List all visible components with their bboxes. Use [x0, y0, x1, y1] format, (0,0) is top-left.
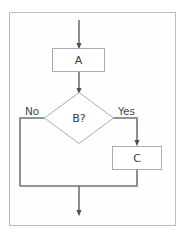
diagram-canvas: A B? C No Yes — [0, 0, 185, 237]
edge-label-yes: Yes — [117, 105, 135, 117]
node-b-label: B? — [72, 112, 86, 125]
node-c-label: C — [133, 152, 141, 165]
node-a-label: A — [75, 54, 83, 67]
flowchart-svg: A B? C No Yes — [0, 0, 185, 237]
edge-label-no: No — [25, 105, 39, 117]
